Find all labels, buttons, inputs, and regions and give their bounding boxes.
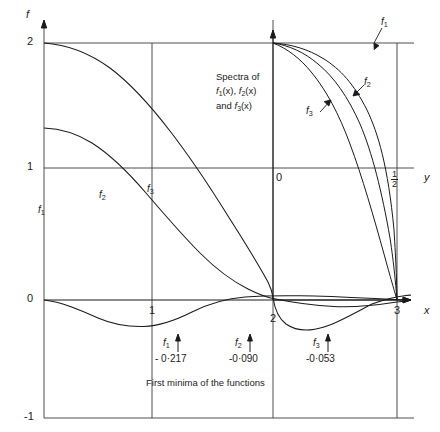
inset-label-f3-sub: 3	[309, 109, 313, 118]
xtick-2: 2	[270, 313, 276, 324]
axis-label-x: x	[424, 305, 430, 316]
caption-f1-tail: (x),	[222, 85, 238, 96]
caption-and: and	[216, 100, 235, 111]
ytick-2: 2	[27, 36, 33, 47]
inset-caption-line2: f1(x), f2(x)	[216, 84, 259, 99]
curve-label-f2: f2	[99, 190, 106, 201]
label-f3-sub: 3	[150, 187, 154, 196]
minima-label-f2: f2	[235, 338, 242, 349]
minima-label-f1: f1	[163, 338, 170, 349]
inset-label-f2-sub: 2	[367, 80, 371, 89]
minima-value-f3: -0·053	[306, 354, 335, 364]
minima-label-f3: f3	[313, 338, 320, 349]
inset-label-f1-sub: 1	[384, 20, 388, 29]
minima-f1-sub: 1	[166, 341, 170, 350]
inset-caption: Spectra of f1(x), f2(x) and f3(x)	[216, 70, 259, 113]
inset-curve-f2	[273, 43, 397, 300]
axis-label-y-inset: y	[424, 172, 430, 183]
minima-value-f2: -0·090	[229, 354, 258, 364]
arrowhead-f-main	[41, 20, 46, 28]
xtick-3: 3	[394, 305, 400, 316]
minima-value-f1: - 0·217	[155, 354, 187, 364]
inset-caption-line3: and f3(x)	[216, 99, 259, 114]
caption-f3-tail: (x)	[241, 100, 252, 111]
arrowhead-inset-f2	[353, 90, 360, 96]
minima-caption: First minima of the functions	[146, 376, 265, 390]
inset-half-fraction: 1 2	[391, 170, 398, 189]
minima-f3-sub: 3	[316, 341, 320, 350]
curve-label-f3: f3	[147, 184, 154, 195]
curve-label-f1: f1	[38, 205, 45, 216]
minima-f2-sub: 2	[238, 341, 242, 350]
ytick-0: 0	[27, 293, 33, 304]
minima-arrows	[176, 334, 331, 352]
ytick-1: 1	[27, 161, 33, 172]
inset-curves	[273, 43, 397, 300]
minima-arrowhead-f3	[326, 334, 331, 341]
figure-canvas	[0, 0, 440, 432]
arrowhead-inset-vertical	[270, 30, 275, 38]
axis-arrows	[41, 20, 411, 303]
axis-label-f: f	[26, 9, 29, 20]
caption-f2-tail: (x)	[245, 85, 256, 96]
curve-f2	[44, 128, 411, 307]
inset-curve-label-f2: f2	[364, 77, 371, 88]
inset-half-label: 1 2	[391, 170, 398, 189]
fraction-denominator: 2	[391, 179, 398, 189]
inset-origin-label: 0	[276, 172, 282, 183]
xtick-1: 1	[149, 305, 155, 316]
ytick-neg1: -1	[24, 411, 34, 422]
arrowhead-inset-f3	[324, 100, 331, 106]
minima-arrowhead-f2	[248, 334, 253, 341]
inset-caption-line1: Spectra of	[216, 70, 259, 84]
inset-curve-label-f1: f1	[381, 17, 388, 28]
label-f2-sub: 2	[102, 193, 106, 202]
arrowhead-inset-f1	[374, 43, 379, 50]
label-f1-sub: 1	[41, 208, 45, 217]
inset-curve-label-f3: f3	[306, 106, 313, 117]
leader-inset-f1	[374, 28, 382, 43]
fraction-numerator: 1	[391, 170, 398, 179]
minima-arrowhead-f1	[176, 334, 181, 341]
